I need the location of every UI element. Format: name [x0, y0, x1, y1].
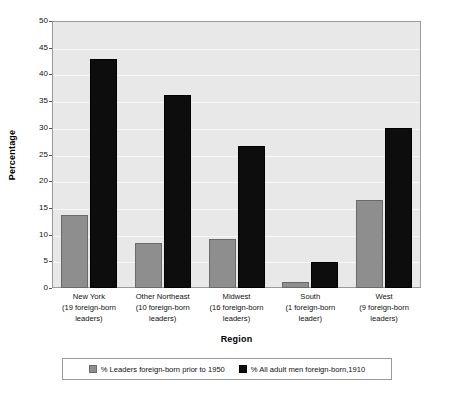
bar-leaders: [209, 239, 236, 288]
y-axis-tick-label: 50: [26, 17, 48, 25]
y-axis-tick-label: 15: [26, 204, 48, 212]
legend-label: % Leaders foreign-born prior to 1950: [101, 365, 225, 374]
x-axis-category-label: New York(19 foreign-bornleaders): [52, 291, 126, 324]
y-axis-tick-label: 0: [26, 284, 48, 292]
y-axis-tick-mark: [49, 288, 52, 289]
y-axis-tick-label: 45: [26, 44, 48, 52]
bar-all-men: [164, 95, 191, 288]
x-axis-category-line: (9 foreign-born: [347, 302, 421, 313]
x-axis-category-line: leaders): [347, 313, 421, 324]
x-axis-category-line: South: [273, 291, 347, 302]
bar-all-men: [311, 262, 338, 288]
y-axis-tick-label: 40: [26, 70, 48, 78]
bar-leaders: [356, 200, 383, 288]
bar-leaders: [61, 215, 88, 288]
y-axis-tick-label: 35: [26, 97, 48, 105]
x-axis-category-line: (19 foreign-born: [52, 302, 126, 313]
bar-leaders: [135, 243, 162, 288]
x-axis-category-line: leaders): [200, 313, 274, 324]
bar-all-men: [238, 146, 265, 288]
legend-swatch-icon: [89, 365, 97, 373]
x-axis-category-label: Other Northeast(10 foreign-bornleaders): [126, 291, 200, 324]
y-axis-tick-label: 25: [26, 151, 48, 159]
legend-swatch-icon: [239, 365, 247, 373]
chart-legend: % Leaders foreign-born prior to 1950% Al…: [62, 358, 392, 380]
x-axis-category-label: West(9 foreign-bornleaders): [347, 291, 421, 324]
x-axis-category-line: (10 foreign-born: [126, 302, 200, 313]
x-axis-category-line: (16 foreign-born: [200, 302, 274, 313]
legend-item[interactable]: % Leaders foreign-born prior to 1950: [89, 365, 225, 374]
legend-item[interactable]: % All adult men foreign-born,1910: [239, 365, 365, 374]
legend-label: % All adult men foreign-born,1910: [251, 365, 365, 374]
bar-all-men: [385, 128, 412, 288]
x-axis-category-line: leader): [273, 313, 347, 324]
bar-leaders: [282, 282, 309, 288]
bar-groups: [52, 21, 421, 288]
bar-chart: Percentage 05101520253035404550 New York…: [0, 0, 453, 396]
y-axis-title: Percentage: [5, 75, 19, 235]
y-axis-tick-label: 5: [26, 257, 48, 265]
x-axis-title: Region: [52, 334, 421, 344]
x-axis-category-line: Other Northeast: [126, 291, 200, 302]
x-axis-category-line: Midwest: [200, 291, 274, 302]
x-axis-category-line: leaders): [126, 313, 200, 324]
y-axis-tick-label: 30: [26, 124, 48, 132]
x-axis-category-line: New York: [52, 291, 126, 302]
bar-all-men: [90, 59, 117, 288]
x-axis-category-label: South(1 foreign-bornleader): [273, 291, 347, 324]
x-axis-category-line: (1 foreign-born: [273, 302, 347, 313]
x-axis-labels: New York(19 foreign-bornleaders)Other No…: [52, 291, 421, 335]
y-axis-tick-label: 10: [26, 231, 48, 239]
y-axis-tick-label: 20: [26, 177, 48, 185]
x-axis-category-label: Midwest(16 foreign-bornleaders): [200, 291, 274, 324]
x-axis-category-line: leaders): [52, 313, 126, 324]
x-axis-category-line: West: [347, 291, 421, 302]
